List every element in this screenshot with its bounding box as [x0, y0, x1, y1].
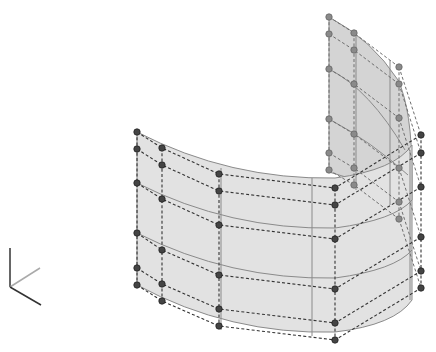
- control-point-back[interactable]: [326, 14, 332, 20]
- axis-triad-icon: [10, 248, 41, 305]
- control-point-back[interactable]: [351, 81, 357, 87]
- control-point[interactable]: [134, 146, 140, 152]
- control-point-back[interactable]: [351, 30, 357, 36]
- control-point[interactable]: [418, 268, 424, 274]
- y-axis: [10, 287, 41, 305]
- control-point-back[interactable]: [326, 116, 332, 122]
- control-point[interactable]: [159, 281, 165, 287]
- control-point[interactable]: [134, 180, 140, 186]
- control-point[interactable]: [418, 184, 424, 190]
- control-point[interactable]: [134, 129, 140, 135]
- control-point-back[interactable]: [326, 66, 332, 72]
- control-point[interactable]: [332, 337, 338, 343]
- control-point-back[interactable]: [396, 199, 402, 205]
- control-point[interactable]: [418, 234, 424, 240]
- control-point[interactable]: [332, 202, 338, 208]
- control-point-back[interactable]: [326, 167, 332, 173]
- control-point-back[interactable]: [326, 31, 332, 37]
- control-point[interactable]: [216, 323, 222, 329]
- nurbs-scene: [0, 0, 436, 352]
- control-point[interactable]: [332, 286, 338, 292]
- control-point-back[interactable]: [326, 150, 332, 156]
- control-point[interactable]: [159, 162, 165, 168]
- control-point-back[interactable]: [351, 165, 357, 171]
- control-point[interactable]: [332, 236, 338, 242]
- control-point[interactable]: [332, 320, 338, 326]
- control-point[interactable]: [134, 265, 140, 271]
- control-point-back[interactable]: [396, 64, 402, 70]
- 3d-viewport[interactable]: [0, 0, 436, 352]
- control-point[interactable]: [134, 282, 140, 288]
- nurbs-surface[interactable]: [137, 17, 412, 336]
- control-point[interactable]: [159, 145, 165, 151]
- control-point[interactable]: [134, 230, 140, 236]
- control-point[interactable]: [159, 196, 165, 202]
- control-point[interactable]: [216, 188, 222, 194]
- control-point-back[interactable]: [396, 216, 402, 222]
- control-point[interactable]: [216, 306, 222, 312]
- control-point[interactable]: [216, 171, 222, 177]
- control-point-back[interactable]: [396, 81, 402, 87]
- control-point-back[interactable]: [351, 47, 357, 53]
- control-point[interactable]: [418, 150, 424, 156]
- control-point[interactable]: [418, 132, 424, 138]
- control-point[interactable]: [216, 272, 222, 278]
- x-axis: [10, 268, 40, 287]
- control-point-back[interactable]: [396, 165, 402, 171]
- control-point[interactable]: [159, 298, 165, 304]
- control-point-back[interactable]: [396, 115, 402, 121]
- control-point[interactable]: [216, 222, 222, 228]
- control-point[interactable]: [418, 285, 424, 291]
- control-point-back[interactable]: [351, 131, 357, 137]
- control-point-back[interactable]: [351, 182, 357, 188]
- control-point[interactable]: [332, 185, 338, 191]
- control-point[interactable]: [159, 247, 165, 253]
